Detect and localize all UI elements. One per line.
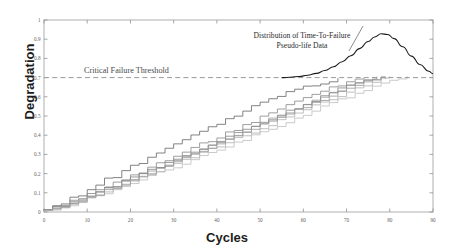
- annotation-line-1: Distribution of Time-To-Failure: [254, 31, 352, 40]
- svg-text:90: 90: [430, 217, 436, 223]
- svg-text:0.3: 0.3: [34, 151, 41, 157]
- svg-text:0.1: 0.1: [34, 190, 41, 196]
- svg-text:0.2: 0.2: [34, 171, 41, 177]
- svg-text:0: 0: [43, 217, 46, 223]
- y-axis-title: Degradation: [22, 27, 37, 137]
- svg-text:0: 0: [38, 209, 41, 215]
- annotation-leader-line: [349, 26, 363, 51]
- svg-text:10: 10: [85, 217, 91, 223]
- threshold-label: Critical Failure Threshold: [84, 66, 169, 75]
- degradation-chart-figure: 0102030405060708090 00.10.20.30.40.50.60…: [0, 0, 454, 252]
- degradation-paths: [44, 77, 407, 211]
- svg-text:70: 70: [344, 217, 350, 223]
- svg-text:50: 50: [258, 217, 264, 223]
- chart-canvas: 0102030405060708090 00.10.20.30.40.50.60…: [0, 0, 454, 252]
- svg-text:40: 40: [214, 217, 220, 223]
- svg-text:60: 60: [301, 217, 307, 223]
- svg-text:1: 1: [38, 17, 41, 23]
- annotation-line-2: Pseudo-life Data: [277, 41, 328, 50]
- y-axis-ticks: 00.10.20.30.40.50.60.70.80.91: [34, 17, 433, 215]
- svg-text:30: 30: [171, 217, 177, 223]
- x-axis-title: Cycles: [0, 230, 454, 245]
- svg-text:80: 80: [387, 217, 393, 223]
- svg-text:20: 20: [128, 217, 134, 223]
